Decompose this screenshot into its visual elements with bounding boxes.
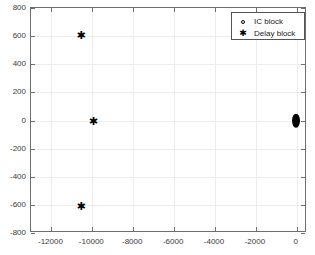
data-point-marker: ✱	[89, 117, 96, 124]
y-axis-tick	[31, 36, 35, 37]
y-tick-label: -400	[0, 171, 26, 180]
y-axis-tick	[301, 8, 305, 9]
legend-label-delay-block: Delay block	[254, 29, 295, 38]
x-tick-label: -4000	[204, 237, 224, 246]
legend-box[interactable]: IC block ✱ Delay block	[231, 12, 305, 40]
x-tick-label: -10000	[79, 237, 104, 246]
y-axis-tick	[31, 233, 35, 234]
y-tick-label: 0	[0, 115, 26, 124]
y-axis-tick	[301, 233, 305, 234]
x-axis-tick	[215, 227, 216, 231]
y-axis-tick	[301, 205, 305, 206]
x-tick-label: -12000	[38, 237, 63, 246]
gridline-horizontal	[31, 149, 305, 150]
y-axis-tick	[31, 8, 35, 9]
legend-entry-delay-block[interactable]: ✱ Delay block	[232, 26, 304, 40]
x-axis-tick	[92, 227, 93, 231]
x-axis-tick	[133, 227, 134, 231]
y-axis-tick	[31, 149, 35, 150]
x-axis-tick	[215, 8, 216, 12]
y-axis-tick	[301, 64, 305, 65]
x-axis-tick	[174, 227, 175, 231]
y-axis-tick	[31, 177, 35, 178]
plot-area: ✱✱✱	[30, 7, 306, 232]
data-point-marker: ✱	[77, 202, 84, 209]
y-axis-tick	[31, 121, 35, 122]
x-axis-tick	[297, 227, 298, 231]
gridline-horizontal	[31, 64, 305, 65]
y-tick-label: 200	[0, 87, 26, 96]
y-tick-label: -800	[0, 228, 26, 237]
x-axis-tick	[133, 8, 134, 12]
x-tick-label: -8000	[122, 237, 142, 246]
y-axis-tick	[31, 92, 35, 93]
gridline-vertical	[256, 8, 257, 231]
y-axis-tick	[301, 177, 305, 178]
gridline-vertical	[133, 8, 134, 231]
y-axis-tick	[31, 64, 35, 65]
gridline-horizontal	[31, 92, 305, 93]
y-axis-tick	[31, 205, 35, 206]
y-tick-label: -200	[0, 143, 26, 152]
x-axis-tick	[51, 8, 52, 12]
gridline-vertical	[174, 8, 175, 231]
y-axis-tick	[301, 149, 305, 150]
gridline-vertical	[51, 8, 52, 231]
gridline-horizontal	[31, 121, 305, 122]
legend-label-ic-block: IC block	[254, 17, 283, 26]
gridline-vertical	[215, 8, 216, 231]
y-tick-label: -600	[0, 199, 26, 208]
gridline-horizontal	[31, 205, 305, 206]
asterisk-marker: ✱	[232, 28, 254, 38]
x-axis-tick	[174, 8, 175, 12]
y-axis-tick	[301, 92, 305, 93]
y-axis-tick	[301, 121, 305, 122]
data-point-marker: ✱	[77, 32, 84, 39]
circle-open-marker	[232, 16, 254, 26]
y-tick-label: 400	[0, 59, 26, 68]
x-axis-tick	[92, 8, 93, 12]
x-tick-label: -6000	[163, 237, 183, 246]
gridlines	[31, 8, 305, 231]
x-tick-label: 0	[294, 237, 298, 246]
x-tick-label: -2000	[245, 237, 265, 246]
figure-canvas: ✱✱✱ -12000-10000-8000-6000-4000-20000 -8…	[0, 0, 315, 255]
y-tick-label: 600	[0, 31, 26, 40]
y-tick-label: 800	[0, 3, 26, 12]
x-axis-tick	[51, 227, 52, 231]
gridline-horizontal	[31, 177, 305, 178]
x-axis-tick	[256, 227, 257, 231]
